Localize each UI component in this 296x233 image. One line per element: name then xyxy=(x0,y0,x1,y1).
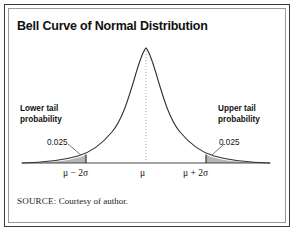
lower-tail-label-line1: Lower tail xyxy=(20,104,62,115)
axis-tick-label-upper-bound: μ + 2σ xyxy=(183,168,208,178)
upper-tail-label-line1: Upper tail xyxy=(218,104,260,115)
source-text: Courtesy of author. xyxy=(59,196,128,206)
lower-tail-label: Lower tail probability xyxy=(20,104,62,125)
upper-tail-label: Upper tail probability xyxy=(218,104,260,125)
source-note: SOURCE: Courtesy of author. xyxy=(17,196,128,206)
lower-probability-value: 0.025 xyxy=(47,138,68,147)
upper-tail-shaded-region xyxy=(206,155,270,163)
upper-probability-value: 0.025 xyxy=(219,138,240,147)
upper-tail-label-line2: probability xyxy=(218,115,260,126)
axis-tick-label-lower-bound: μ − 2σ xyxy=(63,168,88,178)
lower-probability-leader-line xyxy=(68,144,81,155)
figure-container: Bell Curve of Normal Distribution Lower … xyxy=(0,0,296,233)
lower-tail-shaded-region xyxy=(22,155,86,163)
source-prefix: SOURCE: xyxy=(17,196,56,206)
lower-tail-label-line2: probability xyxy=(20,115,62,126)
axis-tick-label-mean: μ xyxy=(140,168,145,178)
